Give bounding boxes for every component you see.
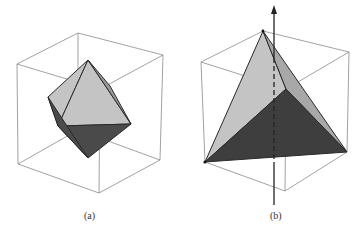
vertex-dot xyxy=(203,160,206,163)
figure-canvas xyxy=(0,0,364,238)
caption-b: (b) xyxy=(270,210,282,221)
vertex-dot xyxy=(262,30,265,33)
caption-a: (a) xyxy=(84,210,95,221)
axis-arrowhead-icon xyxy=(271,5,277,14)
panel-b-tetrahedron xyxy=(205,31,347,162)
panel-a-octahedron xyxy=(48,60,131,158)
